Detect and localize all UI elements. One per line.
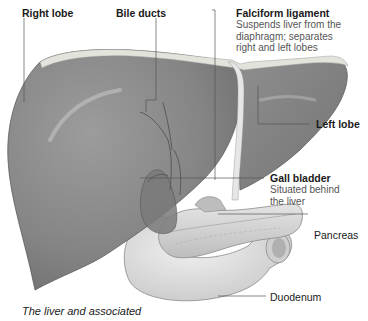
label-falciform-ligament: Falciform ligament Suspends liver from t… (236, 7, 341, 54)
label-duodenum: Duodenum (270, 291, 321, 303)
label-left-lobe: Left lobe (316, 118, 360, 130)
liver-diagram: Right lobe Bile ducts Falciform ligament… (0, 0, 368, 321)
right-lobe-title: Right lobe (22, 7, 73, 19)
gall-bladder-title: Gall bladder (270, 172, 340, 184)
label-right-lobe: Right lobe (22, 7, 73, 19)
gall-bladder-desc-line: Situated behind (270, 184, 340, 196)
pancreas-title: Pancreas (314, 229, 358, 241)
falciform-desc-line: right and left lobes (236, 42, 341, 54)
gall-bladder-desc-line: the liver (270, 196, 340, 208)
bile-ducts-title: Bile ducts (116, 7, 166, 19)
falciform-title: Falciform ligament (236, 7, 341, 19)
label-pancreas: Pancreas (314, 229, 358, 241)
left-lobe-title: Left lobe (316, 118, 360, 130)
figure-caption: The liver and associated (22, 305, 141, 317)
label-bile-ducts: Bile ducts (116, 7, 166, 19)
falciform-desc-line: Suspends liver from the (236, 19, 341, 31)
duodenum-title: Duodenum (270, 291, 321, 303)
falciform-desc-line: diaphragm; separates (236, 31, 341, 43)
label-gall-bladder: Gall bladder Situated behind the liver (270, 172, 340, 207)
